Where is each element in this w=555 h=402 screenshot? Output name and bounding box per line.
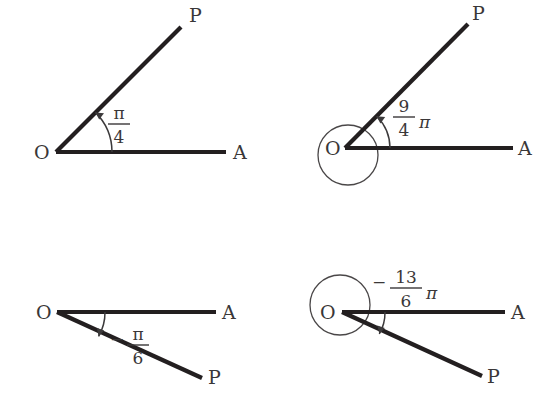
angle-label-fraction: − 13 6 π [372,267,438,311]
vertex-label-O: O [320,301,336,323]
pi-symbol: π [425,283,438,303]
fraction-minus-sign: − [372,272,386,292]
initial-point-label-A: A [510,301,525,323]
terminal-point-label-P: P [208,366,221,388]
fraction-numerator: 9 [399,96,410,116]
angle-diagrams-figure: O P A π 4 O P A 9 4 π O P A [0,0,555,402]
fraction-numerator: π [113,103,124,123]
initial-point-label-A: A [517,137,532,159]
terminal-point-label-P: P [487,365,500,387]
figure-bottom-left: O P A − π 6 [36,301,236,388]
angle-arc [377,116,390,148]
fraction-denominator: 4 [114,127,125,147]
vertex-label-O: O [34,141,50,163]
terminal-point-label-P: P [189,4,202,26]
terminal-point-label-P: P [472,2,485,24]
initial-point-label-A: A [232,141,247,163]
vertex-label-O: O [36,301,52,323]
vertex-label-O: O [325,137,341,159]
fraction-denominator: 6 [401,291,412,311]
arc-arrowhead-icon [95,112,104,119]
full-turn-loop-circle [310,275,370,335]
pi-symbol: π [418,112,431,132]
fraction-denominator: 6 [133,348,144,368]
fraction-minus-sign: − [110,329,124,349]
angle-label-fraction: 9 4 π [393,96,431,140]
arc-arrowhead-icon [377,116,386,123]
fraction-numerator: 13 [395,267,417,287]
fraction-denominator: 4 [399,120,410,140]
initial-point-label-A: A [221,301,236,323]
figure-bottom-right: O P A − 13 6 π [310,267,525,387]
angle-arc [95,112,112,152]
figure-top-right: O P A 9 4 π [318,2,532,185]
fraction-numerator: π [132,324,143,344]
figure-top-left: O P A π 4 [34,4,247,163]
terminal-ray-OP [342,312,482,376]
